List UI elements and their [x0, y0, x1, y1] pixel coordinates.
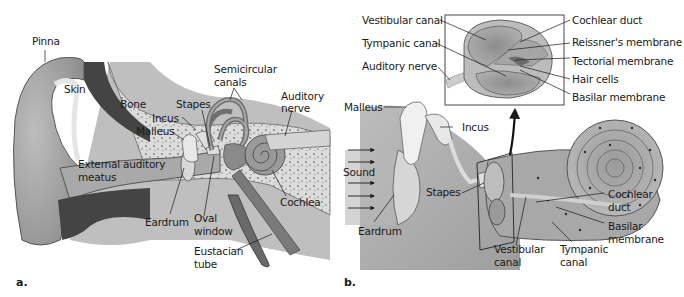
label-cochlea: Cochlea: [280, 196, 321, 208]
label-inset-vestibular-canal: Vestibular canal: [362, 14, 443, 26]
label-pinna: Pinna: [32, 35, 60, 47]
label-basilar-membrane-line2: membrane: [608, 233, 664, 245]
label-stapes-a: Stapes: [176, 98, 211, 110]
label-inset-reissners-membrane: Reissner's membrane: [572, 36, 682, 48]
label-tympanic-canal-line1: Tympanic: [560, 243, 608, 255]
label-eardrum-a: Eardrum: [145, 216, 189, 228]
label-oval-window-line2: window: [194, 225, 233, 237]
label-cochlear-duct-line1: Cochlear: [608, 188, 653, 200]
label-inset-tectorial-membrane: Tectorial membrane: [572, 55, 673, 67]
label-cochlear-duct-line2: duct: [608, 201, 630, 213]
label-vestibular-canal-line1: Vestibular: [494, 243, 544, 255]
label-skin: Skin: [64, 83, 86, 95]
label-eardrum-b: Eardrum: [358, 225, 402, 237]
label-inset-tympanic-canal: Tympanic canal: [362, 37, 440, 49]
label-eustacian-tube-line2: tube: [194, 258, 217, 270]
panel-letter-a: a.: [16, 276, 28, 289]
label-auditory-nerve-line1: Auditory: [281, 90, 324, 102]
label-malleus-a: Malleus: [136, 125, 175, 137]
label-semicircular-line1: Semicircular: [214, 63, 277, 75]
label-inset-auditory-nerve: Auditory nerve: [362, 60, 437, 72]
label-sound: Sound: [343, 166, 375, 178]
panel-a-ear-cross-section: [14, 50, 330, 267]
label-auditory-nerve-line2: nerve: [281, 102, 310, 114]
label-inset-cochlear-duct: Cochlear duct: [572, 14, 642, 26]
label-vestibular-canal-line2: canal: [494, 256, 521, 268]
label-inset-hair-cells: Hair cells: [572, 73, 618, 85]
label-stapes-b: Stapes: [426, 186, 461, 198]
label-tympanic-canal-line2: canal: [560, 256, 587, 268]
label-external-meatus-line1: External auditory: [78, 158, 165, 170]
label-incus-a: Incus: [152, 112, 179, 124]
label-external-meatus-line2: meatus: [78, 171, 116, 183]
label-inset-basilar-membrane: Basilar membrane: [572, 91, 665, 103]
label-malleus-b: Malleus: [344, 101, 383, 113]
label-incus-b: Incus: [462, 121, 489, 133]
label-oval-window-line1: Oval: [194, 212, 217, 224]
label-basilar-membrane-line1: Basilar: [608, 220, 642, 232]
label-eustacian-tube-line1: Eustacian: [194, 245, 243, 257]
label-bone: Bone: [120, 98, 146, 110]
ear-anatomy-figure: Pinna Skin Bone Stapes Incus Malleus Sem…: [0, 0, 684, 297]
panel-letter-b: b.: [344, 276, 356, 289]
label-semicircular-line2: canals: [214, 76, 246, 88]
